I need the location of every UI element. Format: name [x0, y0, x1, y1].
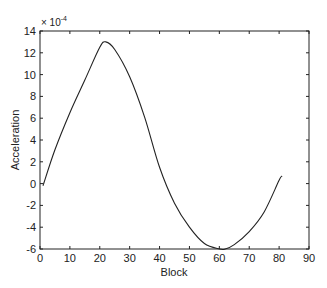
x-tick-label: 40: [153, 252, 165, 264]
y-tick-label: 6: [30, 112, 36, 124]
y-multiplier-base: × 10: [41, 17, 61, 28]
y-tick-label: -2: [26, 199, 36, 211]
y-tick-label: 8: [30, 90, 36, 102]
y-tick-label: -6: [26, 243, 36, 255]
y-tick-label: 2: [30, 156, 36, 168]
plot-area: [40, 31, 309, 249]
x-tick-label: 0: [37, 252, 43, 264]
y-multiplier-label: × 10-4: [41, 15, 67, 28]
y-tick-label: 4: [30, 134, 36, 146]
y-tick-label: 14: [24, 25, 36, 37]
x-tick-label: 50: [183, 252, 195, 264]
x-tick-label: 20: [94, 252, 106, 264]
line-chart: 0102030405060708090 -6-4-202468101214 Bl…: [0, 0, 327, 288]
y-multiplier-exponent: -4: [61, 15, 67, 22]
y-axis-label: Acceleration: [9, 110, 21, 171]
y-tick-label: 12: [24, 47, 36, 59]
x-tick-label: 90: [303, 252, 315, 264]
x-axis-label: Block: [161, 266, 188, 278]
y-tick-label: 0: [30, 178, 36, 190]
x-tick-label: 30: [124, 252, 136, 264]
y-tick-label: -4: [26, 221, 36, 233]
x-tick-label: 80: [273, 252, 285, 264]
y-tick-label: 10: [24, 69, 36, 81]
x-tick-label: 70: [243, 252, 255, 264]
x-tick-label: 10: [64, 252, 76, 264]
x-tick-label: 60: [213, 252, 225, 264]
